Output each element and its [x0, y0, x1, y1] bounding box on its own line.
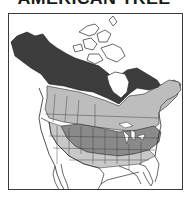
florida-outline	[139, 164, 153, 186]
north-america-map	[9, 14, 183, 190]
range-map	[8, 13, 183, 190]
gulf-coast	[101, 172, 139, 184]
map-title: AMERICAN TREE	[0, 0, 188, 7]
arctic-islands	[73, 16, 125, 64]
